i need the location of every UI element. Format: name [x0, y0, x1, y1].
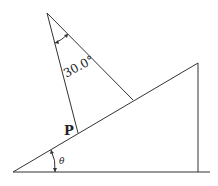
incline-surface [13, 63, 198, 172]
theta-label: θ [59, 156, 65, 166]
theta-arrowhead-top-icon [50, 150, 54, 154]
point-label: P [64, 123, 74, 138]
incline-diagram: 30.0° P θ [0, 0, 218, 186]
apex-arrowhead-left-icon [55, 40, 59, 44]
theta-arrowhead-bottom-icon [53, 168, 57, 172]
apex-angle-label: 30.0° [61, 53, 96, 81]
